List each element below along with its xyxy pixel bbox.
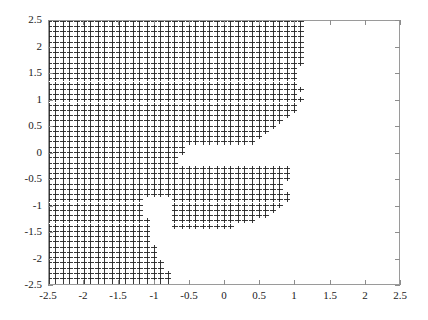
y-tick-2 <box>48 232 53 233</box>
y-tick-0 <box>48 285 53 286</box>
x-tick-0 <box>48 280 49 285</box>
x-tick-label-1: -2 <box>63 290 103 301</box>
x-tick-label-6: 0.5 <box>239 290 279 301</box>
y-tick-label-9: 2 <box>2 41 42 52</box>
y-tick-7 <box>395 100 400 101</box>
x-tick-label-9: 2 <box>345 290 385 301</box>
x-tick-2 <box>118 20 119 25</box>
y-tick-3 <box>395 206 400 207</box>
y-tick-6 <box>48 126 53 127</box>
y-tick-1 <box>48 259 53 260</box>
x-tick-7 <box>294 280 295 285</box>
x-tick-9 <box>365 280 366 285</box>
y-tick-7 <box>48 100 53 101</box>
y-tick-2 <box>395 232 400 233</box>
y-tick-label-2: -1.5 <box>2 226 42 237</box>
x-tick-2 <box>118 280 119 285</box>
y-tick-8 <box>48 73 53 74</box>
x-tick-1 <box>83 280 84 285</box>
x-tick-label-7: 1 <box>274 290 314 301</box>
y-tick-label-6: 0.5 <box>2 120 42 131</box>
x-tick-6 <box>259 20 260 25</box>
y-tick-9 <box>395 47 400 48</box>
marker-layer <box>49 21 399 284</box>
x-tick-8 <box>330 280 331 285</box>
marker-group <box>49 21 304 284</box>
scatter-markers <box>49 21 304 284</box>
y-tick-label-3: -1 <box>2 200 42 211</box>
x-tick-4 <box>189 280 190 285</box>
y-tick-6 <box>395 126 400 127</box>
x-tick-10 <box>400 20 401 25</box>
y-tick-label-5: 0 <box>2 147 42 158</box>
y-tick-3 <box>48 206 53 207</box>
x-tick-label-8: 1.5 <box>310 290 350 301</box>
y-tick-5 <box>48 153 53 154</box>
y-tick-8 <box>395 73 400 74</box>
x-tick-label-4: -0.5 <box>169 290 209 301</box>
x-tick-3 <box>154 280 155 285</box>
x-tick-6 <box>259 280 260 285</box>
x-tick-label-2: -1.5 <box>98 290 138 301</box>
x-tick-3 <box>154 20 155 25</box>
y-tick-label-1: -2 <box>2 253 42 264</box>
y-tick-label-7: 1 <box>2 94 42 105</box>
x-tick-1 <box>83 20 84 25</box>
x-tick-label-5: 0 <box>204 290 244 301</box>
y-tick-4 <box>48 179 53 180</box>
x-tick-10 <box>400 280 401 285</box>
y-tick-label-0: -2.5 <box>2 279 42 290</box>
x-tick-7 <box>294 20 295 25</box>
x-tick-8 <box>330 20 331 25</box>
y-tick-9 <box>48 47 53 48</box>
plot-frame <box>48 20 400 285</box>
y-tick-label-8: 1.5 <box>2 67 42 78</box>
x-tick-0 <box>48 20 49 25</box>
x-tick-4 <box>189 20 190 25</box>
y-tick-label-4: -0.5 <box>2 173 42 184</box>
y-tick-0 <box>395 285 400 286</box>
x-tick-5 <box>224 280 225 285</box>
x-tick-5 <box>224 20 225 25</box>
y-tick-4 <box>395 179 400 180</box>
x-tick-label-10: 2.5 <box>380 290 420 301</box>
y-tick-1 <box>395 259 400 260</box>
x-tick-label-0: -2.5 <box>28 290 68 301</box>
y-tick-5 <box>395 153 400 154</box>
scatter-plot-figure: -2.5-2-1.5-1-0.500.511.522.5-2.5-2-1.5-1… <box>0 0 428 320</box>
x-tick-9 <box>365 20 366 25</box>
y-tick-label-10: 2.5 <box>2 14 42 25</box>
x-tick-label-3: -1 <box>134 290 174 301</box>
